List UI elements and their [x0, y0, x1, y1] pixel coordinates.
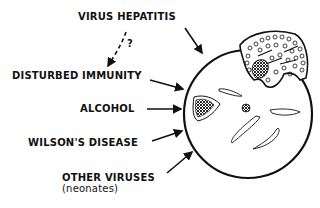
- label-wilsons-disease: WILSON'S DISEASE: [28, 137, 138, 148]
- label-question-mark: ?: [127, 38, 133, 49]
- liver-diagram: [0, 0, 320, 208]
- arrow-disturbed-immunity: [150, 80, 183, 89]
- central-vein-dot: [242, 104, 250, 112]
- arrow-dashed-immunity: [108, 32, 126, 66]
- label-alcohol: ALCOHOL: [80, 103, 135, 114]
- label-virus-hepatitis: VIRUS HEPATITIS: [78, 11, 176, 22]
- label-disturbed-immunity: DISTURBED IMMUNITY: [12, 70, 142, 81]
- label-other-viruses: OTHER VIRUSES: [62, 172, 155, 183]
- arrow-virus-hepatitis: [185, 28, 202, 53]
- arrow-other-viruses: [167, 152, 192, 173]
- arrow-wilsons: [152, 131, 182, 141]
- label-neonates: (neonates): [62, 183, 118, 194]
